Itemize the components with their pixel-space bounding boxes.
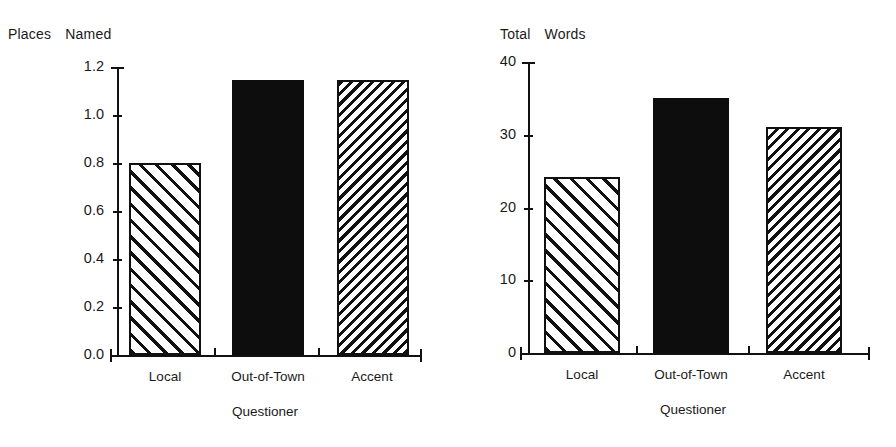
x-tick-mark-2 bbox=[318, 348, 320, 357]
y-tick-label-0: 0 bbox=[460, 344, 516, 360]
y-tick-mark-0 bbox=[522, 353, 535, 355]
y-tick-mark-0.8 bbox=[113, 163, 122, 165]
x-tick-mark-end-right bbox=[868, 347, 870, 360]
y-tick-mark-10 bbox=[524, 280, 533, 282]
y-tick-label-30: 30 bbox=[460, 126, 516, 142]
y-tick-mark-40 bbox=[522, 62, 535, 64]
y-tick-label-0.8: 0.8 bbox=[46, 154, 104, 170]
y-tick-mark-0.6 bbox=[113, 211, 122, 213]
x-tick-mark-1-right bbox=[636, 346, 638, 355]
plot-area-left: 1.2 1.0 0.8 0.6 0.4 0.2 0.0 Local Out-of… bbox=[0, 0, 448, 447]
y-tick-mark-0.4 bbox=[113, 259, 122, 261]
x-tick-label-right-out-of-town: Out-of-Town bbox=[639, 367, 743, 382]
x-tick-label-left-out-of-town: Out-of-Town bbox=[216, 369, 320, 384]
y-tick-mark-1.2 bbox=[111, 67, 124, 69]
y-tick-label-1.2: 1.2 bbox=[46, 58, 104, 74]
bar-right-local bbox=[544, 177, 620, 353]
y-tick-mark-20 bbox=[524, 208, 533, 210]
bar-left-accent bbox=[337, 80, 409, 355]
bar-left-local bbox=[129, 163, 201, 355]
y-tick-label-0.4: 0.4 bbox=[46, 250, 104, 266]
x-axis-line-right bbox=[520, 353, 870, 355]
y-tick-mark-1.0 bbox=[113, 115, 122, 117]
y-tick-label-40: 40 bbox=[460, 53, 516, 69]
y-tick-mark-0.0 bbox=[111, 355, 124, 357]
plot-area-right: 40 30 20 10 0 Local Out-of-Town Accent Q… bbox=[448, 0, 896, 447]
bar-right-out-of-town bbox=[653, 98, 729, 353]
y-tick-label-0.0: 0.0 bbox=[46, 346, 104, 362]
x-tick-mark-start bbox=[110, 349, 112, 362]
y-tick-label-1.0: 1.0 bbox=[46, 106, 104, 122]
y-tick-label-0.6: 0.6 bbox=[46, 202, 104, 218]
y-tick-mark-0.2 bbox=[113, 307, 122, 309]
x-axis-title-left: Questioner bbox=[165, 404, 365, 419]
x-tick-mark-start-right bbox=[520, 347, 522, 360]
y-tick-label-0.2: 0.2 bbox=[46, 298, 104, 314]
x-tick-label-right-local: Local bbox=[532, 367, 632, 382]
x-tick-mark-1 bbox=[214, 348, 216, 357]
x-tick-label-left-accent: Accent bbox=[322, 369, 422, 384]
x-tick-label-right-accent: Accent bbox=[754, 367, 854, 382]
x-tick-mark-2-right bbox=[748, 346, 750, 355]
chart-panel-places-named: PlacesNamed 1.2 1.0 0.8 0.6 0.4 0.2 0.0 bbox=[0, 0, 448, 447]
x-tick-mark-end bbox=[420, 349, 422, 362]
x-axis-title-right: Questioner bbox=[593, 402, 793, 417]
x-tick-label-left-local: Local bbox=[115, 369, 215, 384]
figure-two-bar-charts: PlacesNamed 1.2 1.0 0.8 0.6 0.4 0.2 0.0 bbox=[0, 0, 896, 447]
bar-right-accent bbox=[766, 127, 842, 353]
bar-left-out-of-town bbox=[232, 80, 304, 355]
chart-panel-total-words: TotalWords 40 30 20 10 0 bbox=[448, 0, 896, 447]
x-axis-line-left bbox=[110, 355, 422, 357]
y-tick-label-10: 10 bbox=[460, 271, 516, 287]
y-tick-mark-30 bbox=[524, 135, 533, 137]
y-tick-label-20: 20 bbox=[460, 199, 516, 215]
